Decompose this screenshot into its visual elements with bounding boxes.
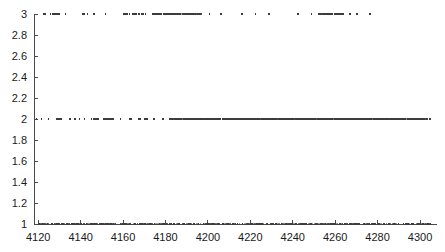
data-point [237, 223, 239, 225]
data-point [43, 13, 45, 15]
data-point [294, 118, 296, 120]
data-point [274, 118, 276, 120]
data-point [59, 118, 61, 120]
data-point [369, 13, 371, 15]
dense-run-level-2 [170, 118, 426, 120]
data-point [132, 13, 134, 15]
data-point [330, 118, 332, 120]
data-point [96, 118, 98, 120]
data-point [229, 118, 231, 120]
data-point [298, 118, 300, 120]
data-point [177, 223, 179, 225]
data-point [379, 118, 381, 120]
data-point [355, 118, 357, 120]
data-point [229, 223, 231, 225]
data-point [417, 223, 419, 225]
data-point [314, 223, 316, 225]
data-point [133, 13, 135, 15]
data-point [208, 118, 210, 120]
data-point [219, 118, 221, 120]
data-point [186, 118, 188, 120]
data-point [173, 13, 175, 15]
data-point [66, 223, 68, 225]
y-tick-label: 1.2 [12, 197, 27, 209]
data-point [378, 223, 380, 225]
data-point [129, 118, 131, 120]
data-point [154, 13, 156, 15]
data-point [84, 118, 86, 120]
data-point [282, 223, 284, 225]
data-point [92, 223, 94, 225]
data-point [200, 223, 202, 225]
data-point [287, 118, 289, 120]
data-point [87, 223, 89, 225]
data-point [226, 223, 228, 225]
data-point [238, 118, 240, 120]
data-point [338, 13, 340, 15]
data-point [91, 118, 93, 120]
data-point [55, 13, 57, 15]
data-point [232, 223, 234, 225]
data-point [198, 223, 200, 225]
data-point [241, 13, 243, 15]
data-point [138, 13, 140, 15]
data-point [38, 223, 40, 225]
data-point [184, 223, 186, 225]
data-point [105, 13, 107, 15]
data-point [386, 223, 388, 225]
data-point [69, 223, 71, 225]
data-point [239, 223, 241, 225]
data-point [362, 118, 364, 120]
data-point [142, 223, 144, 225]
data-point [131, 118, 133, 120]
data-point [211, 223, 213, 225]
data-point [50, 13, 52, 15]
data-point [129, 13, 131, 15]
data-point [317, 223, 319, 225]
data-point [113, 118, 115, 120]
data-point [383, 223, 385, 225]
data-point [169, 223, 171, 225]
data-point [93, 13, 95, 15]
data-point [78, 223, 80, 225]
data-point [363, 223, 365, 225]
y-tick-label: 1.6 [12, 155, 27, 167]
data-point [115, 223, 117, 225]
data-point [429, 223, 431, 225]
data-point [304, 118, 306, 120]
data-point [224, 223, 226, 225]
data-point [181, 13, 183, 15]
data-point [171, 13, 173, 15]
data-point [175, 13, 177, 15]
data-point [325, 223, 327, 225]
data-point [235, 223, 237, 225]
data-point [251, 223, 253, 225]
data-point [318, 118, 320, 120]
data-point [375, 223, 377, 225]
data-point [377, 223, 379, 225]
y-tick-label: 2.8 [12, 29, 27, 41]
data-point [393, 223, 395, 225]
data-point [177, 118, 179, 120]
data-point [52, 223, 54, 225]
data-point [54, 223, 56, 225]
data-point [113, 223, 115, 225]
data-point [64, 223, 66, 225]
data-point [200, 13, 202, 15]
data-point [155, 223, 157, 225]
data-point [103, 118, 105, 120]
data-point [311, 13, 313, 15]
data-point [281, 118, 283, 120]
data-point [316, 118, 318, 120]
data-point [412, 223, 414, 225]
data-point [40, 223, 42, 225]
y-tick-label: 2.4 [12, 71, 27, 83]
data-point [278, 223, 280, 225]
data-point [374, 118, 376, 120]
data-point [180, 13, 182, 15]
data-point [195, 118, 197, 120]
data-point [108, 118, 110, 120]
data-point [321, 223, 323, 225]
data-point [254, 223, 256, 225]
data-point [99, 223, 101, 225]
